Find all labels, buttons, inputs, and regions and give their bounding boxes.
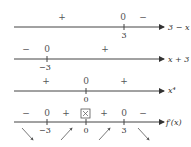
- sign: 0: [121, 108, 127, 118]
- row-label: x⁴: [168, 86, 176, 95]
- sign: +: [58, 12, 66, 22]
- tick-label: −3: [39, 126, 51, 135]
- increasing-arrow-icon: [99, 128, 110, 140]
- sign: −: [22, 44, 30, 54]
- sign: +: [42, 76, 50, 86]
- sign: 0: [44, 44, 50, 54]
- sign: +: [100, 108, 108, 118]
- tick-label: 3: [121, 31, 126, 40]
- sign: 0: [120, 12, 126, 22]
- row-x-plus-3: − 0 + −3 x + 3: [14, 44, 189, 72]
- row-label: x + 3: [168, 55, 189, 64]
- sign: −: [139, 108, 147, 118]
- sign: +: [62, 108, 70, 118]
- sign-chart: + 0 − 3 3 − x − 0 + −3 x + 3 + 0 + 0 x⁴ …: [0, 0, 191, 147]
- sign: +: [101, 44, 109, 54]
- increasing-arrow-icon: [61, 128, 72, 140]
- tick-label: 0: [83, 126, 88, 135]
- row-label: f′(x): [165, 118, 182, 127]
- tick-label: −3: [39, 63, 51, 72]
- decreasing-arrow-icon: [138, 128, 149, 140]
- sign: 0: [83, 76, 89, 86]
- sign: 0: [44, 108, 50, 118]
- row-3-minus-x: + 0 − 3 3 − x: [14, 12, 190, 40]
- sign: −: [22, 108, 30, 118]
- tick-label: 0: [83, 95, 88, 104]
- decreasing-arrow-icon: [22, 128, 33, 140]
- tick-label: 3: [121, 126, 126, 135]
- sign: −: [139, 12, 147, 22]
- row-f-prime: − 0 + + 0 − −3 0 3 f′(x): [14, 108, 182, 140]
- row-label: 3 − x: [168, 23, 190, 32]
- sign: +: [120, 76, 128, 86]
- row-x4: + 0 + 0 x⁴: [14, 76, 176, 104]
